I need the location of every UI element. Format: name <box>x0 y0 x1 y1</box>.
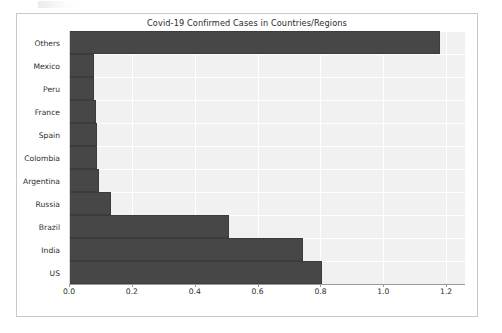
y-axis-spine <box>69 31 70 284</box>
bar <box>69 215 229 238</box>
bar <box>69 169 99 192</box>
bar-fill <box>69 238 303 261</box>
bar-fill <box>69 100 96 123</box>
bar <box>69 146 97 169</box>
x-axis-spine <box>69 284 465 285</box>
x-tick-label: 0.0 <box>63 287 75 296</box>
bar <box>69 31 440 54</box>
x-tickmark <box>132 284 133 287</box>
y-tick-label: US <box>50 268 60 277</box>
x-tickmark <box>320 284 321 287</box>
y-tick-label: Others <box>34 38 60 47</box>
y-tick-label: Peru <box>43 84 60 93</box>
bar-fill <box>69 54 94 77</box>
x-tick-label: 0.4 <box>189 287 201 296</box>
x-tickmark <box>383 284 384 287</box>
y-tick-label: Mexico <box>33 61 60 70</box>
x-tick-label: 0.2 <box>126 287 138 296</box>
bar-series <box>69 31 465 284</box>
bar-fill <box>69 77 94 100</box>
bar <box>69 123 97 146</box>
bar <box>69 54 94 77</box>
bar <box>69 100 96 123</box>
bar-fill <box>69 31 440 54</box>
bar <box>69 238 303 261</box>
x-tickmark <box>195 284 196 287</box>
bar-fill <box>69 192 111 215</box>
y-tick-label: Brazil <box>39 222 60 231</box>
y-axis-tick-labels: OthersMexicoPeruFranceSpainColombiaArgen… <box>17 31 65 284</box>
bar-fill <box>69 123 97 146</box>
scan-artifact <box>38 1 82 8</box>
bar-fill <box>69 261 322 284</box>
x-axis-tick-labels: 0.00.20.40.60.81.01.2 <box>69 287 465 303</box>
y-tick-label: Argentina <box>23 176 60 185</box>
chart-title: Covid-19 Confirmed Cases in Countries/Re… <box>17 18 477 28</box>
x-tick-label: 0.8 <box>314 287 326 296</box>
y-tick-label: Colombia <box>24 153 60 162</box>
y-tick-label: Spain <box>39 130 60 139</box>
x-tick-label: 1.2 <box>440 287 452 296</box>
x-tickmark <box>258 284 259 287</box>
y-tick-label: India <box>41 245 60 254</box>
x-tick-label: 1.0 <box>377 287 389 296</box>
bar-fill <box>69 215 229 238</box>
chart-figure: Covid-19 Confirmed Cases in Countries/Re… <box>16 13 478 317</box>
bar-fill <box>69 169 99 192</box>
x-tickmark <box>69 284 70 287</box>
plot-area <box>69 31 465 284</box>
bar <box>69 261 322 284</box>
y-tick-label: France <box>35 107 60 116</box>
bar <box>69 77 94 100</box>
x-tick-label: 0.6 <box>252 287 264 296</box>
x-tickmark <box>446 284 447 287</box>
bar-fill <box>69 146 97 169</box>
y-tick-label: Russia <box>36 199 60 208</box>
bar <box>69 192 111 215</box>
